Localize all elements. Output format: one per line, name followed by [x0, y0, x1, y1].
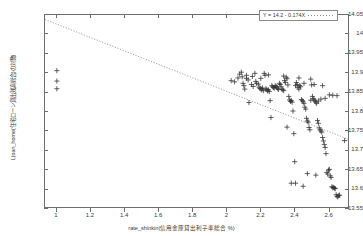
y-tick-mark	[44, 189, 48, 190]
y-axis-label: L(oan_home(住宅ローン貸出残高総合)の対数)	[10, 13, 17, 203]
x-tick-mark-top	[226, 14, 227, 18]
x-tick-label: 1.4	[109, 211, 139, 219]
x-tick-label: 1.8	[177, 211, 207, 219]
x-tick-mark-top	[158, 14, 159, 18]
plot-area	[44, 14, 349, 208]
y-tick-label: 13.7	[323, 146, 363, 153]
y-tick-label: 13.6	[323, 185, 363, 192]
scatter-chart: 13.5513.613.6513.713.7513.813.8513.913.9…	[0, 0, 363, 236]
y-tick-mark	[44, 72, 48, 73]
x-tick-label: 1.2	[75, 211, 105, 219]
y-tick-mark	[44, 150, 48, 151]
x-tick-mark-top	[192, 14, 193, 18]
x-tick-mark-top	[56, 14, 57, 18]
x-tick-label: 1	[41, 211, 71, 219]
legend-line-swatch	[308, 15, 334, 16]
x-tick-mark-top	[124, 14, 125, 18]
y-tick-label: 13.95	[323, 49, 363, 56]
x-tick-label: 2.4	[279, 211, 309, 219]
y-tick-label: 13.75	[323, 127, 363, 134]
x-axis-label: rate_shinkin(信用金庫貸出利子率総合 %)	[0, 224, 363, 232]
x-tick-label: 1.6	[143, 211, 173, 219]
legend: Y = 14.2 - 0.174X	[259, 10, 338, 21]
scatter-points	[45, 15, 348, 207]
y-tick-label: 13.85	[323, 88, 363, 95]
x-tick-label: 2	[211, 211, 241, 219]
legend-equation-label: Y = 14.2 - 0.174X	[263, 12, 305, 19]
y-tick-mark	[44, 208, 48, 209]
y-tick-label: 13.65	[323, 166, 363, 173]
y-tick-label: 13.8	[323, 108, 363, 115]
x-tick-mark-top	[90, 14, 91, 18]
y-tick-mark	[44, 111, 48, 112]
y-tick-label: 14	[323, 30, 363, 37]
x-tick-label: 2.2	[245, 211, 275, 219]
y-tick-mark	[44, 14, 48, 15]
x-tick-label: 2.6	[314, 211, 344, 219]
y-tick-mark	[44, 92, 48, 93]
y-tick-mark	[44, 53, 48, 54]
y-tick-mark	[44, 169, 48, 170]
y-tick-label: 13.9	[323, 69, 363, 76]
y-tick-mark	[44, 130, 48, 131]
y-tick-mark	[44, 33, 48, 34]
